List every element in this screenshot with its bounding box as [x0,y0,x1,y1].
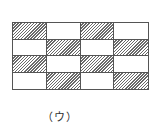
hatched-cell [114,40,148,57]
blank-cell [47,23,81,40]
figure-caption: （ウ） [0,108,120,124]
hatched-cell [47,40,81,57]
hatched-cell [81,23,115,40]
blank-cell [81,40,115,57]
blank-cell [114,23,148,40]
hatched-cell [13,23,47,40]
blank-cell [13,73,47,90]
blank-cell [13,40,47,57]
hatched-cell [13,56,47,73]
hatched-cell [81,56,115,73]
hatched-cell [47,73,81,90]
blank-cell [47,56,81,73]
blank-cell [81,73,115,90]
blank-cell [114,56,148,73]
hatched-cell [114,73,148,90]
checkerboard-grid [12,22,149,90]
